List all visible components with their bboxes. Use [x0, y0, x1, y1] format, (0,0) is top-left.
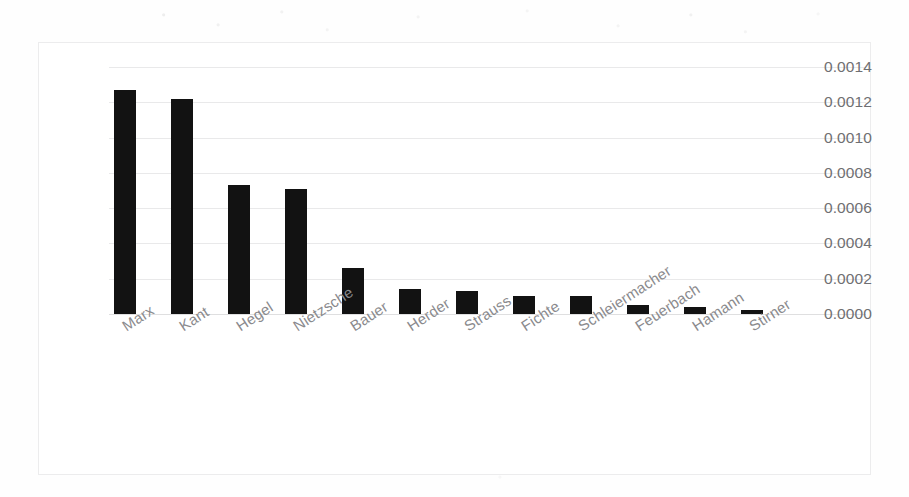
chart-frame: 0.00140.00120.00100.00080.00060.00040.00… [38, 42, 871, 475]
x-axis-tick-label: Strauss [461, 292, 514, 335]
x-axis-tick-labels: MarxKantHegelNietzscheBauerHerderStrauss… [109, 43, 866, 476]
x-axis-tick-label: Schleiermacher [575, 262, 674, 335]
screenshot-root: 0.00140.00120.00100.00080.00060.00040.00… [0, 0, 909, 497]
x-axis-tick-label: Stirner [746, 295, 793, 334]
x-axis-tick-label: Herder [404, 294, 453, 334]
plot-area: 0.00140.00120.00100.00080.00060.00040.00… [39, 43, 872, 476]
x-axis-tick-label: Kant [176, 303, 212, 335]
x-axis-tick-label: Nietzsche [290, 283, 356, 334]
x-axis-tick-label: Fichte [518, 297, 563, 334]
x-axis-tick-label: Marx [119, 301, 157, 334]
x-axis-tick-label: Bauer [347, 298, 391, 335]
x-axis-tick-label: Hegel [233, 298, 276, 334]
